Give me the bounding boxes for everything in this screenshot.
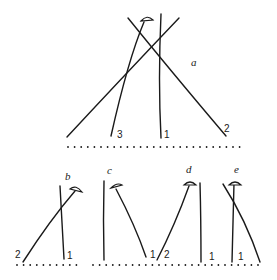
line-label: 2 xyxy=(224,123,230,134)
panel-label: d xyxy=(186,163,192,175)
baseline-dot xyxy=(107,146,109,148)
baseline-dot xyxy=(16,264,18,266)
baseline-dot xyxy=(239,146,241,148)
baseline-dot xyxy=(56,264,58,266)
line-label: 1 xyxy=(238,251,244,262)
line-1 xyxy=(160,14,162,138)
baseline-dot xyxy=(67,146,69,148)
baseline-dot xyxy=(165,264,167,266)
baseline-dot xyxy=(166,146,168,148)
line-label: 1 xyxy=(209,251,215,262)
line-1 xyxy=(60,186,64,259)
panel-d: d 2 1 xyxy=(157,163,215,262)
line-1 xyxy=(200,183,201,262)
baseline-dot xyxy=(145,264,147,266)
panel-c: c 1 xyxy=(104,164,157,260)
panel-label: c xyxy=(107,164,112,176)
baseline-dot xyxy=(62,264,64,266)
baseline-dot xyxy=(74,146,76,148)
baseline-dot xyxy=(140,146,142,148)
baseline-dot xyxy=(132,264,134,266)
baseline-dot xyxy=(179,146,181,148)
lamp-icon xyxy=(111,184,122,188)
baseline-dot xyxy=(218,264,220,266)
line-3 xyxy=(111,22,144,136)
baseline-dot xyxy=(232,146,234,148)
baseline-dot xyxy=(119,264,121,266)
line-label: 1 xyxy=(67,250,73,261)
baseline-dot xyxy=(186,146,188,148)
panel-label: e xyxy=(234,163,239,175)
baseline-dot xyxy=(105,264,107,266)
lamp-icon xyxy=(70,187,82,192)
baseline-dot xyxy=(171,264,173,266)
baseline-dot xyxy=(133,146,135,148)
baseline-dot xyxy=(43,264,45,266)
panel-a: a 3 1 2 xyxy=(67,14,241,148)
baseline-dot xyxy=(237,264,239,266)
line-2 xyxy=(128,18,226,136)
baseline-dot xyxy=(127,146,129,148)
panel-label: a xyxy=(191,56,197,68)
line-1 xyxy=(116,189,146,257)
baseline-dot xyxy=(244,264,246,266)
line-1 xyxy=(232,183,234,262)
baseline-dot xyxy=(125,264,127,266)
baseline-dot xyxy=(211,264,213,266)
baseline-dot xyxy=(178,264,180,266)
baseline-dot xyxy=(99,264,101,266)
panel-b: b 2 1 xyxy=(15,170,82,262)
line-label: 2 xyxy=(164,249,170,260)
line-2 xyxy=(157,186,189,260)
baseline-dot xyxy=(198,264,200,266)
baseline-dot xyxy=(100,146,102,148)
line-label: 1 xyxy=(150,249,156,260)
panel-e: e 1 xyxy=(223,163,260,262)
baseline-dot xyxy=(251,264,253,266)
baseline-dot xyxy=(158,264,160,266)
baseline-dot xyxy=(206,146,208,148)
baseline-dot xyxy=(185,264,187,266)
baseline-dots xyxy=(67,146,240,148)
baseline-dot xyxy=(160,146,162,148)
baseline-dots xyxy=(16,264,259,266)
baseline-dot xyxy=(36,264,38,266)
baseline-dot xyxy=(76,264,78,266)
baseline-dot xyxy=(193,146,195,148)
baseline-dot xyxy=(146,146,148,148)
baseline-dot xyxy=(94,146,96,148)
line-label: 1 xyxy=(164,129,170,140)
baseline-dot xyxy=(23,264,25,266)
baseline-dot xyxy=(80,146,82,148)
baseline-dot xyxy=(224,264,226,266)
panel-label: b xyxy=(65,170,71,182)
baseline-dot xyxy=(199,146,201,148)
baseline-dot xyxy=(204,264,206,266)
baseline-dot xyxy=(112,264,114,266)
line-label: 3 xyxy=(117,129,123,140)
baseline-dot xyxy=(257,264,259,266)
baseline-dot xyxy=(69,264,71,266)
baseline-dot xyxy=(49,264,51,266)
baseline-dot xyxy=(153,146,155,148)
baseline-dot xyxy=(226,146,228,148)
baseline-dot xyxy=(138,264,140,266)
line-label: 2 xyxy=(15,249,21,260)
lamp-icon xyxy=(141,17,153,21)
line-diagonal xyxy=(67,18,179,137)
baseline-dot xyxy=(219,146,221,148)
baseline-dot xyxy=(212,146,214,148)
lamp-icon xyxy=(184,182,196,185)
baseline-dot xyxy=(87,146,89,148)
baseline-dot xyxy=(173,146,175,148)
baseline-dot xyxy=(29,264,31,266)
baseline-dot xyxy=(191,264,193,266)
baseline-dot xyxy=(113,146,115,148)
baseline-dot xyxy=(152,264,154,266)
baseline-dot xyxy=(231,264,233,266)
line-vertical xyxy=(104,181,105,260)
diagram: a 3 1 2 b 2 1 c 1 d 2 1 e 1 xyxy=(0,0,277,280)
baseline-dot xyxy=(120,146,122,148)
baseline-dot xyxy=(92,264,94,266)
lamp-icon xyxy=(229,182,241,185)
